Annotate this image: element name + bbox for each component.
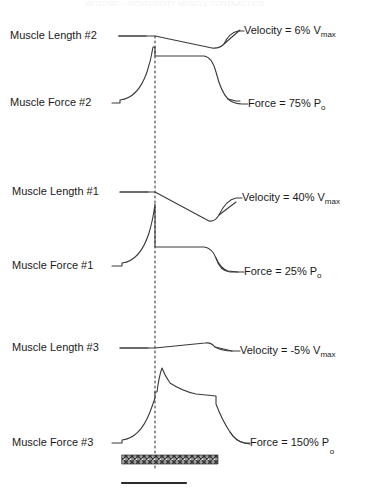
annotation-velocity-1: Velocity = 40% Vmax [242,191,340,204]
velocity-text-3: Velocity = -5% V [240,344,320,356]
force-trace-panel-3 [112,368,250,444]
force-subscript-2: o [321,103,325,112]
velocity-subscript-1: max [325,197,340,206]
label-muscle-length-1: Muscle Length #1 [12,185,99,198]
label-muscle-force-2: Muscle Force #2 [10,96,91,109]
label-muscle-length-3: Muscle Length #3 [12,341,99,354]
label-muscle-length-2: Muscle Length #2 [10,29,97,42]
label-muscle-force-3: Muscle Force #3 [12,436,93,449]
stimulus-duration-bar [122,455,218,464]
muscle-contraction-figure: ISOTONIC - ISOVELOCITY MUSCLE CONTRACTIO… [0,0,370,494]
annotation-force-2: Force = 75% Po [248,97,326,110]
force-text-3: Force = 150% P [250,436,329,448]
length-trace-panel-2 [119,30,240,48]
annotation-velocity-2: Velocity = 6% Vmax [244,24,336,37]
force-trace-panel-2 [112,47,240,103]
length-trace-panel-1 [120,192,236,221]
force-text-2: Force = 75% P [248,97,321,109]
annotation-velocity-3: Velocity = -5% Vmax [240,344,336,357]
annotation-force-3: Force = 150% Po [250,436,337,449]
label-muscle-force-1: Muscle Force #1 [12,259,93,272]
force-subscript-1: o [317,271,321,280]
force-text-1: Force = 25% P [244,265,317,277]
velocity-text-2: Velocity = 6% V [244,24,321,36]
leader-force-3 [230,432,250,443]
force-subscript-3: o [330,447,334,456]
velocity-subscript-2: max [321,30,336,39]
velocity-subscript-3: max [320,350,335,359]
annotation-force-1: Force = 25% Po [244,265,322,278]
trace-canvas [0,0,370,494]
velocity-text-1: Velocity = 40% V [242,191,325,203]
